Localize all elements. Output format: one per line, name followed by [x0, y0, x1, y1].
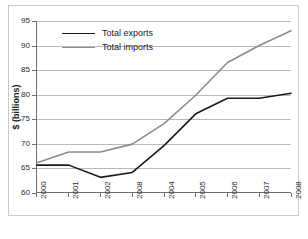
x-tick-mark-5	[195, 193, 196, 197]
x-tick-label-8: 2008	[295, 181, 303, 199]
y-tick-mark-85	[32, 70, 36, 71]
legend-swatch-imports	[62, 47, 95, 48]
y-tick-mark-75	[32, 119, 36, 120]
series-line-total-exports	[37, 93, 291, 177]
x-tick-label-1: 2001	[72, 181, 80, 199]
y-tick-mark-95	[32, 21, 36, 22]
y-tick-mark-90	[32, 46, 36, 47]
x-tick-label-6: 2006	[231, 181, 239, 199]
y-tick-label-65: 65	[4, 164, 30, 172]
x-tick-mark-4	[164, 193, 165, 197]
x-tick-mark-0	[36, 193, 37, 197]
y-tick-mark-70	[32, 144, 36, 145]
y-tick-label-75: 75	[4, 115, 30, 123]
legend-swatch-exports	[62, 33, 95, 34]
y-tick-label-60: 60	[4, 189, 30, 197]
y-tick-mark-65	[32, 168, 36, 169]
y-tick-label-90: 90	[4, 42, 30, 50]
y-tick-label-80: 80	[4, 91, 30, 99]
legend-label-imports: Total imports	[102, 42, 153, 52]
legend-item-imports: Total imports	[62, 40, 153, 54]
x-tick-mark-1	[68, 193, 69, 197]
y-tick-label-95: 95	[4, 17, 30, 25]
x-tick-mark-6	[227, 193, 228, 197]
legend-item-exports: Total exports	[62, 26, 153, 40]
chart-legend: Total exports Total imports	[62, 26, 153, 54]
x-tick-mark-8	[291, 193, 292, 197]
x-tick-label-4: 2004	[168, 181, 176, 199]
y-tick-mark-80	[32, 95, 36, 96]
y-tick-label-85: 85	[4, 66, 30, 74]
x-tick-label-0: 2000	[40, 181, 48, 199]
x-tick-label-7: 2007	[263, 181, 271, 199]
y-tick-label-70: 70	[4, 140, 30, 148]
x-tick-label-3: 2008	[136, 181, 144, 199]
x-tick-mark-7	[259, 193, 260, 197]
plot-area: Total exports Total imports	[36, 21, 291, 193]
x-tick-mark-2	[100, 193, 101, 197]
legend-label-exports: Total exports	[102, 28, 153, 38]
chart-figure: $ (billions) Total exports Total imports…	[0, 0, 308, 239]
x-tick-label-5: 2005	[199, 181, 207, 199]
x-tick-mark-3	[132, 193, 133, 197]
x-tick-label-2: 2002	[104, 181, 112, 199]
